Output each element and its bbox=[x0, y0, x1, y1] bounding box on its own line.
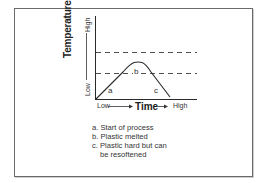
curve-label-b: b bbox=[133, 67, 139, 76]
legend: a. Start of process b. Plastic melted c.… bbox=[92, 123, 167, 159]
y-high-label: High bbox=[84, 18, 91, 32]
x-axis-title: Time bbox=[135, 101, 158, 112]
curve-label-c: c bbox=[154, 86, 158, 95]
y-axis-title-text: Temperature bbox=[62, 0, 73, 58]
legend-item-a: a. Start of process bbox=[92, 123, 167, 132]
x-low-label: Low bbox=[97, 102, 110, 109]
legend-item-c-continued: be resoftened bbox=[92, 150, 167, 159]
legend-item-b: b. Plastic melted bbox=[92, 132, 167, 141]
x-high-label: High bbox=[173, 102, 187, 109]
y-low-label: Low bbox=[84, 83, 91, 96]
x-arrow-left-head bbox=[129, 105, 133, 109]
legend-item-c: c. Plastic hard but can bbox=[92, 141, 167, 150]
curve-label-a: a bbox=[108, 86, 112, 95]
x-arrow-right-head bbox=[164, 105, 168, 109]
